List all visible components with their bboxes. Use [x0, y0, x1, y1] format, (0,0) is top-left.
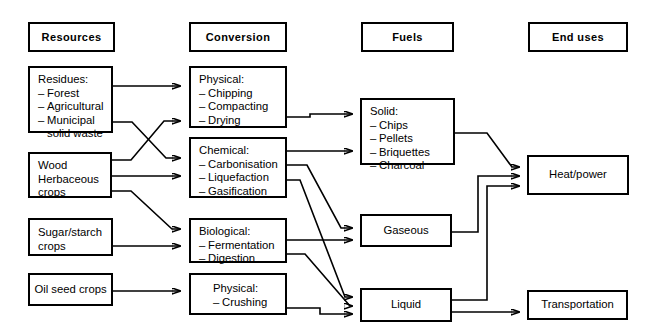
column-header-fuels: Fuels	[361, 22, 454, 52]
node-sugar-line2: crops	[38, 240, 111, 254]
list-item: Liquefaction	[199, 171, 285, 185]
connector-liquid-heatpower	[452, 186, 519, 300]
node-transportation: Transportation	[527, 290, 628, 320]
node-physical-bottom: Physical: Crushing	[189, 273, 287, 315]
connector-biological-liquid	[287, 254, 352, 306]
list-item-continuation: solid waste	[38, 127, 111, 141]
node-chemical: Chemical: Carbonisation Liquefaction Gas…	[189, 137, 287, 198]
node-residues-title: Residues:	[38, 73, 111, 87]
node-gaseous: Gaseous	[360, 214, 452, 247]
node-physical-top-list: Chipping Compacting Drying	[199, 87, 285, 128]
node-oil-seed-crops: Oil seed crops	[28, 273, 113, 306]
node-sugar-line1: Sugar/starch	[38, 226, 111, 240]
node-solid-list: Chips Pellets Briquettes Charcoal	[370, 119, 453, 173]
flowchart-canvas: Resources Conversion Fuels End uses Resi…	[0, 0, 659, 335]
list-item: Charcoal	[370, 159, 453, 173]
node-wood-line3: crops	[38, 186, 110, 200]
column-header-enduses: End uses	[528, 22, 628, 52]
node-chemical-title: Chemical:	[199, 144, 285, 158]
node-liquid: Liquid	[360, 288, 452, 322]
list-item: Drying	[199, 114, 285, 128]
connector-gaseous-heatpower	[452, 176, 519, 232]
list-item: Municipal	[38, 114, 111, 128]
column-header-conversion-label: Conversion	[206, 31, 271, 43]
node-biological: Biological: Fermentation Digestion	[189, 218, 287, 263]
list-item: Briquettes	[370, 146, 453, 160]
node-wood-line1: Wood	[38, 159, 110, 173]
column-header-enduses-label: End uses	[552, 31, 604, 43]
node-residues-list: Forest Agricultural Municipal solid wast…	[38, 87, 111, 141]
column-header-conversion: Conversion	[189, 22, 287, 52]
list-item: Digestion	[199, 252, 285, 266]
node-solid: Solid: Chips Pellets Briquettes Charcoal	[360, 98, 455, 165]
node-physical-bottom-title: Physical:	[213, 282, 285, 296]
connector-wood-physical	[112, 121, 180, 160]
node-wood-line2: Herbaceous	[38, 173, 110, 187]
list-item: Carbonisation	[199, 158, 285, 172]
list-item: Pellets	[370, 132, 453, 146]
node-physical-top: Physical: Chipping Compacting Drying	[189, 66, 287, 128]
list-item: Gasification	[199, 185, 285, 199]
node-biological-title: Biological:	[199, 225, 285, 239]
list-item: Compacting	[199, 100, 285, 114]
node-chemical-list: Carbonisation Liquefaction Gasification	[199, 158, 285, 199]
connector-solid-heatpower	[455, 133, 519, 167]
column-header-resources: Resources	[28, 22, 115, 52]
list-item: Fermentation	[199, 239, 285, 253]
node-biological-list: Fermentation Digestion	[199, 239, 285, 266]
connector-physical-solid	[287, 114, 352, 117]
list-item: Agricultural	[38, 100, 111, 114]
node-residues: Residues: Forest Agricultural Municipal …	[28, 66, 113, 133]
list-item: Chipping	[199, 87, 285, 101]
column-header-fuels-label: Fuels	[392, 31, 423, 43]
node-physical-bottom-list: Crushing	[213, 296, 285, 310]
node-gaseous-label: Gaseous	[383, 224, 428, 238]
list-item: Crushing	[213, 296, 285, 310]
node-heat-power: Heat/power	[527, 155, 629, 195]
node-sugar-starch-crops: Sugar/starch crops	[28, 218, 113, 256]
node-wood-herbaceous-crops: Wood Herbaceous crops	[28, 152, 112, 198]
node-heat-power-label: Heat/power	[549, 168, 607, 182]
connector-chemical-gaseous	[287, 165, 352, 228]
column-header-resources-label: Resources	[42, 31, 102, 43]
node-transportation-label: Transportation	[541, 298, 613, 312]
node-oilseed-label: Oil seed crops	[34, 283, 106, 297]
list-item: Forest	[38, 87, 111, 101]
node-solid-title: Solid:	[370, 105, 453, 119]
connector-physicalbottom-liquid	[287, 308, 352, 314]
list-item: Chips	[370, 119, 453, 133]
connector-chemical-liquid	[287, 180, 352, 297]
node-physical-top-title: Physical:	[199, 73, 285, 87]
connector-wood-biological	[112, 191, 180, 229]
connector-residues-chemical	[113, 122, 180, 158]
node-liquid-label: Liquid	[391, 298, 421, 312]
